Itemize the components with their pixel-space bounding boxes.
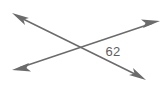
angle-measure-label: 62 [106,44,121,59]
geometry-figure: 62 [0,0,168,90]
figure-background [0,0,168,90]
geometry-canvas: 62 [0,0,168,90]
